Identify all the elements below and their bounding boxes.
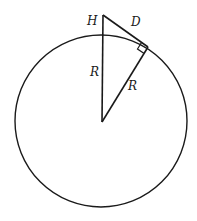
label-d: D	[130, 15, 141, 29]
label-r-tangent: R	[127, 79, 137, 93]
label-h: H	[86, 14, 98, 28]
vertical-line-h-plus-r	[102, 15, 103, 122]
circle	[15, 35, 187, 207]
label-r-vertical: R	[89, 65, 99, 79]
radius-to-tangent-point	[102, 47, 148, 122]
tangent-line-d	[103, 15, 148, 47]
earth-horizon-diagram: H D R R	[0, 0, 197, 221]
